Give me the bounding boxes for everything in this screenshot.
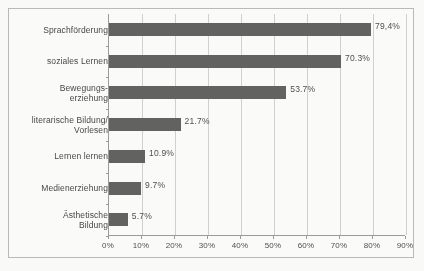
x-tick-mark bbox=[306, 236, 307, 239]
bar-row: 5.7% bbox=[109, 204, 405, 236]
bar bbox=[109, 182, 141, 195]
category-label-line: Medienerziehung bbox=[8, 183, 108, 194]
category-label-line: Lernen lernen bbox=[8, 151, 108, 162]
x-tick-label: 30% bbox=[199, 241, 216, 250]
x-tick-mark bbox=[372, 236, 373, 239]
bar bbox=[109, 213, 128, 226]
x-tick-label: 20% bbox=[166, 241, 183, 250]
bar-value-label: 70.3% bbox=[345, 53, 370, 63]
category-label-line: Bewegungs- bbox=[8, 83, 108, 94]
bar-value-label: 10.9% bbox=[149, 148, 174, 158]
bar-row: 70.3% bbox=[109, 46, 405, 78]
x-tick-mark bbox=[240, 236, 241, 239]
category-label: Bewegungs-erziehung bbox=[8, 83, 108, 104]
bar-value-label: 53.7% bbox=[290, 84, 315, 94]
x-tick-mark bbox=[141, 236, 142, 239]
x-tick-label: 40% bbox=[232, 241, 249, 250]
bar-row: 9.7% bbox=[109, 173, 405, 205]
bar-row: 53.7% bbox=[109, 77, 405, 109]
bar-value-label: 5.7% bbox=[132, 211, 152, 221]
x-tick-mark bbox=[273, 236, 274, 239]
bar bbox=[109, 23, 371, 36]
bar bbox=[109, 118, 181, 131]
x-tick-label: 90% bbox=[397, 241, 414, 250]
bar-row: 10.9% bbox=[109, 141, 405, 173]
bar bbox=[109, 86, 286, 99]
x-tick-label: 70% bbox=[331, 241, 348, 250]
category-label-line: Sprachförderung bbox=[8, 25, 108, 36]
bar bbox=[109, 55, 341, 68]
x-tick-label: 0% bbox=[102, 241, 114, 250]
x-tick-label: 50% bbox=[265, 241, 282, 250]
x-tick-label: 60% bbox=[298, 241, 315, 250]
x-tick-label: 10% bbox=[133, 241, 150, 250]
x-axis: 0%10%20%30%40%50%60%70%80%90% bbox=[108, 236, 405, 254]
bar-value-label: 79,4% bbox=[375, 21, 400, 31]
category-label-line: Vorlesen bbox=[8, 125, 108, 136]
category-label: soziales Lernen bbox=[8, 56, 108, 67]
bar-row: 79,4% bbox=[109, 14, 405, 46]
plot-area: 79,4%70.3%53.7%21.7%10.9%9.7%5.7% bbox=[108, 14, 405, 236]
bar-value-label: 9.7% bbox=[145, 180, 165, 190]
bar-chart-figure: Sprachförderungsoziales LernenBewegungs-… bbox=[0, 0, 424, 271]
x-tick-mark bbox=[108, 236, 109, 239]
x-tick-mark bbox=[405, 236, 406, 239]
category-label: Medienerziehung bbox=[8, 183, 108, 194]
category-label-line: Bildung bbox=[8, 220, 108, 231]
category-label: Lernen lernen bbox=[8, 151, 108, 162]
bar bbox=[109, 150, 145, 163]
category-axis: Sprachförderungsoziales LernenBewegungs-… bbox=[4, 14, 108, 236]
x-tick-mark bbox=[174, 236, 175, 239]
category-label-line: literarische Bildung/ bbox=[8, 115, 108, 126]
category-label: literarische Bildung/Vorlesen bbox=[8, 115, 108, 136]
category-label: ÄsthetischeBildung bbox=[8, 210, 108, 231]
category-label-line: Ästhetische bbox=[8, 210, 108, 221]
x-tick-label: 80% bbox=[364, 241, 381, 250]
x-tick-mark bbox=[339, 236, 340, 239]
category-label: Sprachförderung bbox=[8, 25, 108, 36]
bar-row: 21.7% bbox=[109, 109, 405, 141]
category-label-line: soziales Lernen bbox=[8, 56, 108, 67]
gridline bbox=[406, 14, 407, 235]
category-label-line: erziehung bbox=[8, 93, 108, 104]
bar-value-label: 21.7% bbox=[185, 116, 210, 126]
x-tick-mark bbox=[207, 236, 208, 239]
